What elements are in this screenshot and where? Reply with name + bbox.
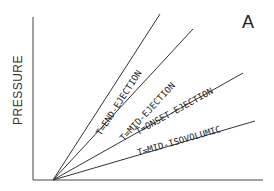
pressure-relationship-diagram: PRESSURE A T=END-EJECTION T=MID-EJECTION… [0,0,274,191]
y-axis-label: PRESSURE [11,55,25,125]
diagram-canvas [0,0,274,191]
panel-label: A [242,12,254,33]
